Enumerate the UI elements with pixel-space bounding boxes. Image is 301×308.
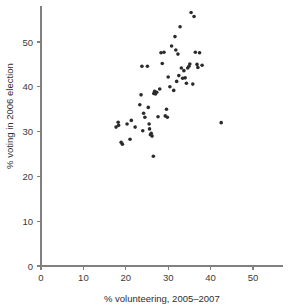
x-tick-label: 20 — [121, 272, 132, 283]
x-tick-label: 30 — [163, 272, 174, 283]
data-point — [200, 64, 204, 68]
data-point — [172, 89, 176, 93]
data-point — [192, 15, 196, 19]
data-point — [146, 64, 150, 68]
data-point — [125, 122, 129, 126]
x-axis-title: % volunteering, 2005–2007 — [104, 293, 220, 304]
data-point — [194, 51, 198, 55]
y-axis-title: % voting in 2006 election — [4, 63, 15, 169]
data-point — [189, 11, 193, 15]
data-point — [142, 111, 146, 115]
y-tick-label: 30 — [22, 126, 33, 137]
data-point — [150, 134, 154, 138]
y-tick-label: 50 — [22, 37, 33, 48]
data-point — [198, 51, 202, 55]
data-point — [138, 103, 142, 107]
plot-canvas: 01020304050 01020304050 % volunteering, … — [0, 0, 301, 308]
data-point — [117, 124, 121, 128]
data-point — [178, 25, 182, 29]
data-point — [155, 90, 159, 94]
data-point — [174, 48, 178, 52]
data-point — [130, 119, 134, 123]
data-point — [166, 75, 170, 79]
data-point — [219, 121, 223, 125]
data-point — [140, 64, 144, 68]
data-point — [141, 129, 145, 133]
data-point — [152, 154, 156, 158]
data-point — [170, 44, 174, 48]
data-point — [128, 137, 132, 141]
data-point — [139, 93, 143, 97]
x-axis-ticks: 01020304050 — [38, 266, 258, 283]
data-point — [188, 62, 192, 66]
data-point — [160, 62, 164, 66]
y-tick-label: 20 — [22, 171, 33, 182]
data-point — [158, 87, 162, 91]
data-point — [168, 85, 172, 89]
data-point — [195, 63, 199, 67]
data-point — [175, 80, 179, 84]
data-point — [146, 106, 150, 110]
data-point — [143, 115, 147, 119]
data-point — [173, 35, 177, 39]
data-point — [176, 52, 180, 56]
data-point — [156, 115, 160, 119]
y-tick-label: 10 — [22, 216, 33, 227]
axes-group — [41, 6, 283, 266]
data-point — [183, 76, 187, 80]
data-point — [133, 125, 137, 129]
x-tick-label: 40 — [205, 272, 216, 283]
x-tick-label: 50 — [248, 272, 259, 283]
y-tick-label: 40 — [22, 81, 33, 92]
data-point — [166, 115, 170, 119]
x-tick-label: 0 — [38, 272, 43, 283]
data-point — [121, 142, 125, 146]
x-tick-label: 10 — [78, 272, 89, 283]
y-tick-label: 0 — [28, 261, 33, 272]
data-point — [177, 74, 181, 78]
data-point — [196, 66, 200, 70]
data-point — [162, 51, 166, 55]
data-point — [180, 66, 184, 70]
data-point — [148, 127, 152, 131]
data-points-layer — [114, 11, 223, 158]
data-point — [191, 82, 195, 86]
data-point — [165, 107, 169, 111]
y-axis-ticks: 01020304050 — [22, 37, 41, 272]
data-point — [182, 69, 186, 73]
scatter-chart: 01020304050 01020304050 % volunteering, … — [0, 0, 301, 308]
data-point — [147, 122, 151, 126]
data-point — [116, 120, 120, 124]
data-point — [185, 81, 189, 85]
